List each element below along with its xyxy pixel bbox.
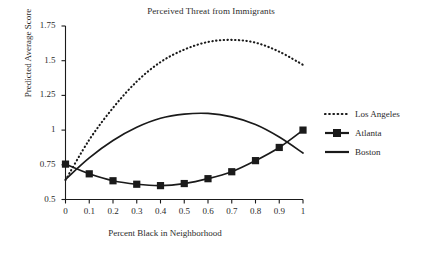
- legend-item-atlanta: Atlanta: [324, 123, 400, 142]
- y-tick-label: 1: [22, 124, 56, 134]
- series-line-los-angeles: [66, 40, 304, 180]
- x-tick-label: 0: [55, 206, 77, 216]
- legend-label-los-angeles: Los Angeles: [355, 109, 400, 119]
- legend-item-boston: Boston: [324, 142, 400, 161]
- data-point-marker: [62, 161, 69, 168]
- dotted-line-key: [324, 108, 350, 120]
- data-series-group: [62, 40, 307, 189]
- data-point-marker: [276, 144, 283, 151]
- square-marker-line-key: [324, 127, 350, 139]
- x-tick-label: 0.5: [173, 206, 195, 216]
- x-tick-label: 0.8: [245, 206, 267, 216]
- chart-legend: Los Angeles Atlanta Boston: [324, 104, 400, 161]
- data-point-marker: [204, 175, 211, 182]
- series-line-boston: [66, 113, 304, 179]
- legend-label-atlanta: Atlanta: [355, 128, 382, 138]
- data-point-marker: [252, 157, 259, 164]
- axes: [65, 26, 303, 200]
- data-point-marker: [133, 181, 140, 188]
- x-tick-label: 0.9: [268, 206, 290, 216]
- y-tick-label: 1.75: [22, 20, 56, 30]
- y-tick-label: 0.75: [22, 159, 56, 169]
- data-point-marker: [228, 168, 235, 175]
- y-tick-label: 1.5: [22, 55, 56, 65]
- chart-figure: Perceived Threat from Immigrants Predict…: [0, 0, 422, 254]
- legend-item-los-angeles: Los Angeles: [324, 104, 400, 123]
- x-tick-label: 0.3: [126, 206, 148, 216]
- data-point-marker: [181, 180, 188, 187]
- x-tick-label: 1: [292, 206, 314, 216]
- x-tick-label: 0.6: [197, 206, 219, 216]
- y-tick-label: 0.5: [22, 194, 56, 204]
- data-point-marker: [86, 170, 93, 177]
- y-tick-marks: [62, 26, 66, 200]
- x-tick-marks: [66, 200, 304, 204]
- x-tick-label: 0.1: [78, 206, 100, 216]
- data-point-marker: [157, 182, 164, 189]
- solid-line-key: [324, 146, 350, 158]
- data-point-marker: [109, 177, 116, 184]
- x-tick-label: 0.7: [221, 206, 243, 216]
- legend-label-boston: Boston: [355, 147, 381, 157]
- y-tick-label: 1.25: [22, 89, 56, 99]
- x-tick-label: 0.4: [150, 206, 172, 216]
- x-tick-label: 0.2: [102, 206, 124, 216]
- x-axis-title: Percent Black in Neighborhood: [20, 228, 310, 238]
- data-point-marker: [299, 127, 306, 134]
- series-line-atlanta: [66, 130, 304, 186]
